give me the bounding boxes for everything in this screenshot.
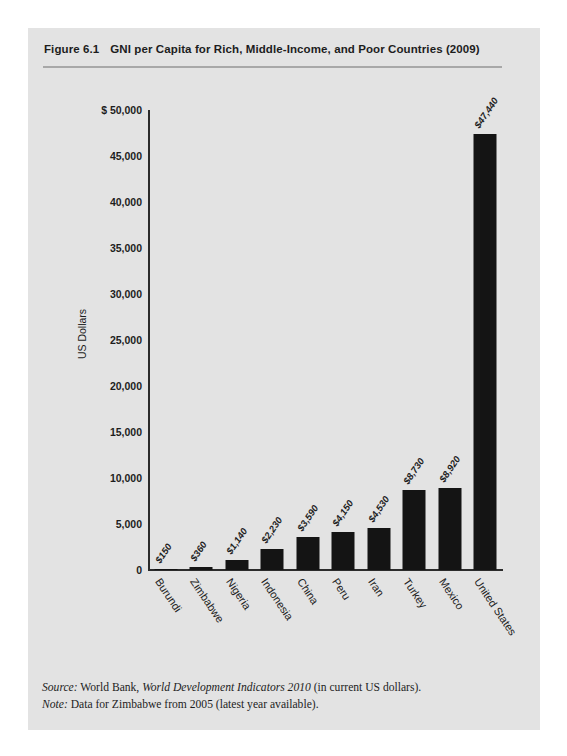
bar-rect[interactable] [190, 567, 213, 570]
bar-group[interactable]: $8,730Turkey [397, 110, 433, 570]
x-tick-label: Iran [366, 576, 387, 598]
x-tick-label: Burundi [153, 576, 184, 614]
y-tick-label: 45,000 [110, 150, 142, 162]
bar-group[interactable]: $47,440United States [468, 110, 504, 570]
source-publication: World Development Indicators 2010 [142, 681, 311, 694]
bar-rect[interactable] [474, 134, 497, 570]
bar-rect[interactable] [367, 528, 390, 570]
bar-value-label: $360 [188, 539, 209, 563]
note-text: Data for Zimbabwe from 2005 (latest year… [68, 698, 319, 711]
bar-value-label: $47,440 [472, 95, 500, 130]
bar-value-label: $150 [153, 541, 174, 565]
x-tick-label: Peru [330, 576, 353, 602]
source-text-post: (in current US dollars). [311, 681, 421, 694]
y-tick-label: 35,000 [110, 242, 142, 254]
bar-rect[interactable] [438, 488, 461, 570]
bar-group[interactable]: $3,590China [290, 110, 326, 570]
bar-value-label: $4,150 [330, 498, 355, 528]
x-tick-label: Zimbabwe [188, 576, 226, 625]
bar-value-label: $1,140 [224, 525, 249, 555]
bar-group[interactable]: $2,230Indonesia [255, 110, 291, 570]
note-label: Note: [42, 698, 68, 711]
y-tick-label: $ 50,000 [101, 104, 142, 116]
figure-note: Note: Data for Zimbabwe from 2005 (lates… [42, 697, 522, 714]
x-tick-label: Mexico [437, 576, 466, 612]
bar-group[interactable]: $8,920Mexico [432, 110, 468, 570]
y-tick-label: 5,000 [116, 518, 142, 530]
chart-plot-area: US Dollars 05,00010,00015,00020,00025,00… [28, 28, 540, 730]
bar-value-label: $2,230 [259, 515, 284, 545]
x-tick-label: China [295, 576, 321, 607]
source-label: Source: [42, 681, 78, 694]
source-text-pre: World Bank, [78, 681, 143, 694]
y-tick-label: 10,000 [110, 472, 142, 484]
figure-notes: Source: World Bank, World Development In… [42, 680, 522, 714]
bar-value-label: $8,730 [401, 455, 426, 485]
bar-group[interactable]: $150Burundi [148, 110, 184, 570]
y-tick-label: 0 [136, 564, 142, 576]
bar-value-label: $8,920 [437, 454, 462, 484]
bars-layer: $150Burundi$360Zimbabwe$1,140Nigeria$2,2… [148, 110, 503, 570]
y-tick-label: 30,000 [110, 288, 142, 300]
y-tick-label: 15,000 [110, 426, 142, 438]
x-tick-label: United States [472, 576, 519, 637]
bar-group[interactable]: $4,530Iran [361, 110, 397, 570]
bar-value-label: $4,530 [366, 494, 391, 524]
x-tick-label: Nigeria [224, 576, 253, 612]
x-tick-label: Indonesia [259, 576, 296, 622]
bar-rect[interactable] [296, 537, 319, 570]
bar-rect[interactable] [261, 549, 284, 570]
figure-source: Source: World Bank, World Development In… [42, 680, 522, 697]
bar-group[interactable]: $360Zimbabwe [184, 110, 220, 570]
y-tick-label: 20,000 [110, 380, 142, 392]
bar-rect[interactable] [403, 490, 426, 570]
x-tick-label: Turkey [401, 576, 430, 610]
bar-group[interactable]: $1,140Nigeria [219, 110, 255, 570]
y-tick-label: 25,000 [110, 334, 142, 346]
bar-rect[interactable] [154, 569, 177, 570]
y-axis-label: US Dollars [76, 274, 88, 394]
figure-panel: Figure 6.1GNI per Capita for Rich, Middl… [28, 28, 540, 730]
bar-group[interactable]: $4,150Peru [326, 110, 362, 570]
bar-value-label: $3,590 [295, 503, 320, 533]
bar-rect[interactable] [332, 532, 355, 570]
bar-rect[interactable] [225, 560, 248, 570]
y-tick-label: 40,000 [110, 196, 142, 208]
